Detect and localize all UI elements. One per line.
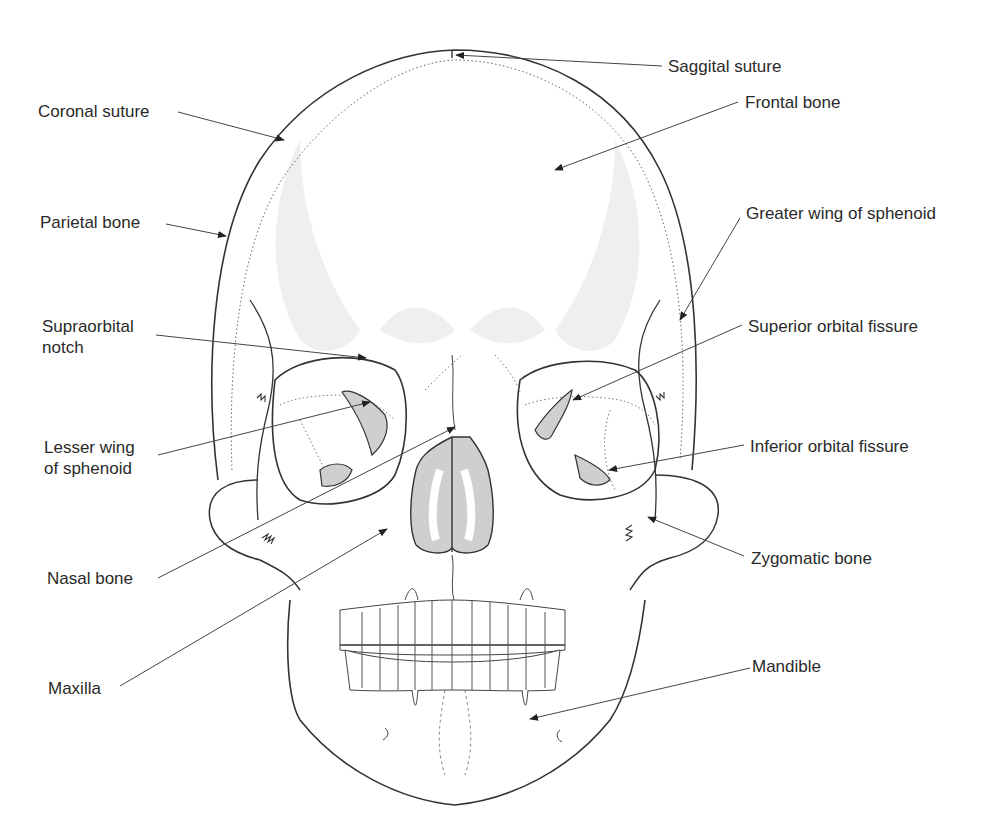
label-supraorbital-line2: notch bbox=[42, 337, 134, 358]
nasal-cavity bbox=[411, 437, 494, 553]
label-lesser-wing-of-sphenoid: Lesser wing of sphenoid bbox=[44, 437, 135, 479]
mental-foramina bbox=[383, 728, 562, 742]
label-greater-wing-of-sphenoid: Greater wing of sphenoid bbox=[746, 203, 936, 224]
skull-diagram bbox=[0, 0, 1006, 816]
label-mandible: Mandible bbox=[752, 656, 821, 677]
frontal-shading bbox=[276, 140, 640, 351]
label-maxilla: Maxilla bbox=[48, 678, 101, 699]
label-superior-orbital-fissure: Superior orbital fissure bbox=[748, 316, 918, 337]
label-zygomatic-bone: Zygomatic bone bbox=[751, 548, 872, 569]
label-supraorbital-line1: Supraorbital bbox=[42, 316, 134, 337]
label-frontal-bone: Frontal bone bbox=[745, 92, 840, 113]
label-lesser-wing-line1: Lesser wing bbox=[44, 437, 135, 458]
label-saggital-suture: Saggital suture bbox=[668, 56, 781, 77]
label-inferior-orbital-fissure: Inferior orbital fissure bbox=[750, 436, 909, 457]
mental-line bbox=[439, 690, 471, 775]
label-parietal-bone: Parietal bone bbox=[40, 212, 140, 233]
label-lesser-wing-line2: of sphenoid bbox=[44, 458, 135, 479]
label-nasal-bone: Nasal bone bbox=[47, 568, 133, 589]
label-supraorbital-notch: Supraorbital notch bbox=[42, 316, 134, 358]
teeth bbox=[340, 589, 565, 705]
label-coronal-suture: Coronal suture bbox=[38, 101, 150, 122]
